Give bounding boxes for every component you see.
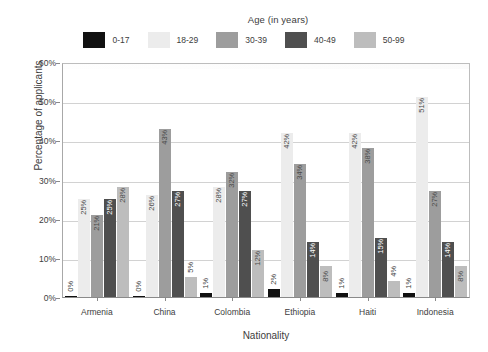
bar-haiti-18-29[interactable]: 42%	[349, 133, 361, 298]
bar-indonesia-40-49[interactable]: 14%	[442, 242, 454, 297]
bar-china-50-99[interactable]: 5%	[185, 277, 197, 297]
bar-group-china: 0%26%43%27%5%China	[131, 64, 199, 297]
x-tick-mark	[368, 297, 369, 301]
bar-value-label: 42%	[283, 130, 291, 148]
bar-value-label: 8%	[457, 263, 465, 281]
bar-china-40-49[interactable]: 27%	[172, 191, 184, 297]
y-tick-mark	[56, 298, 60, 299]
bar-ethiopia-40-49[interactable]: 14%	[307, 242, 319, 297]
bar-haiti-0-17[interactable]: 1%	[336, 293, 348, 297]
bar-haiti-50-99[interactable]: 4%	[388, 281, 400, 297]
x-tick-label-ethiopia: Ethiopia	[266, 307, 334, 317]
bar-armenia-0-17[interactable]: 0%	[65, 296, 77, 298]
bar-value-label: 38%	[364, 146, 372, 164]
bar-group-armenia: 0%25%21%25%28%Armenia	[63, 64, 131, 297]
bar-value-label: 28%	[119, 185, 127, 203]
bar-value-label: 21%	[93, 213, 101, 231]
bar-colombia-50-99[interactable]: 12%	[252, 250, 264, 297]
bar-group-indonesia: 1%51%27%14%8%Indonesia	[401, 64, 469, 297]
bar-indonesia-0-17[interactable]: 1%	[403, 293, 415, 297]
x-tick-label-indonesia: Indonesia	[401, 307, 469, 317]
legend-item-0-17: 0-17	[83, 32, 129, 48]
y-tick-mark	[56, 259, 60, 260]
legend-label: 18-29	[177, 35, 199, 45]
bar-group-ethiopia: 2%42%34%14%8%Ethiopia	[266, 64, 334, 297]
bar-china-0-17[interactable]: 0%	[133, 296, 145, 298]
legend-item-30-39: 30-39	[216, 32, 267, 48]
bar-indonesia-50-99[interactable]: 8%	[455, 266, 467, 297]
y-tick-label: 20%	[22, 215, 56, 225]
bar-value-label: 27%	[174, 189, 182, 207]
legend-label: 50-99	[383, 35, 405, 45]
y-tick-label: 10%	[22, 254, 56, 264]
legend-label: 30-39	[245, 35, 267, 45]
bar-value-label: 28%	[215, 185, 223, 203]
x-tick-label-haiti: Haiti	[334, 307, 402, 317]
chart-legend: 0-1718-2930-3940-4950-99	[0, 32, 488, 48]
bar-indonesia-18-29[interactable]: 51%	[416, 97, 428, 297]
bar-ethiopia-50-99[interactable]: 8%	[320, 266, 332, 297]
bar-value-label: 34%	[296, 162, 304, 180]
bar-value-label: 5%	[187, 255, 195, 273]
bar-value-label: 25%	[80, 197, 88, 215]
bar-china-18-29[interactable]: 26%	[146, 195, 158, 297]
bar-value-label: 32%	[228, 169, 236, 187]
legend-item-18-29: 18-29	[148, 32, 199, 48]
y-tick-mark	[56, 102, 60, 103]
bar-value-label: 1%	[202, 271, 210, 289]
y-tick-label: 0%	[22, 293, 56, 303]
y-tick-mark	[56, 63, 60, 64]
bar-value-label: 2%	[270, 267, 278, 285]
bar-haiti-30-39[interactable]: 38%	[362, 148, 374, 297]
legend-swatch-30-39	[216, 32, 238, 48]
x-tick-mark	[435, 297, 436, 301]
bar-value-label: 14%	[309, 240, 317, 258]
bar-colombia-18-29[interactable]: 28%	[213, 187, 225, 297]
y-axis-title: Percentage of applicants	[33, 26, 44, 206]
bar-groups: 0%25%21%25%28%Armenia0%26%43%27%5%China1…	[63, 64, 469, 297]
bar-value-label: 4%	[390, 259, 398, 277]
bar-indonesia-30-39[interactable]: 27%	[429, 191, 441, 297]
bar-value-label: 27%	[241, 189, 249, 207]
bar-value-label: 14%	[444, 240, 452, 258]
bar-value-label: 8%	[322, 263, 330, 281]
legend-swatch-0-17	[83, 32, 105, 48]
bar-ethiopia-18-29[interactable]: 42%	[281, 133, 293, 298]
y-tick-mark	[56, 141, 60, 142]
legend-item-40-49: 40-49	[285, 32, 336, 48]
bar-ethiopia-0-17[interactable]: 2%	[268, 289, 280, 297]
bar-armenia-40-49[interactable]: 25%	[104, 199, 116, 297]
bar-group-haiti: 1%42%38%15%4%Haiti	[334, 64, 402, 297]
bar-value-label: 15%	[377, 236, 385, 254]
x-tick-mark	[165, 297, 166, 301]
bar-value-label: 43%	[161, 126, 169, 144]
y-tick-mark	[56, 181, 60, 182]
x-tick-mark	[300, 297, 301, 301]
bar-haiti-40-49[interactable]: 15%	[375, 238, 387, 297]
legend-item-50-99: 50-99	[354, 32, 405, 48]
bar-colombia-30-39[interactable]: 32%	[226, 172, 238, 297]
x-tick-label-armenia: Armenia	[63, 307, 131, 317]
bar-value-label: 26%	[148, 193, 156, 211]
bar-value-label: 1%	[405, 271, 413, 289]
x-tick-mark	[232, 297, 233, 301]
legend-title: Age (in years)	[0, 14, 488, 25]
legend-swatch-50-99	[354, 32, 376, 48]
bar-ethiopia-30-39[interactable]: 34%	[294, 164, 306, 297]
y-tick-mark	[56, 220, 60, 221]
bar-armenia-30-39[interactable]: 21%	[91, 215, 103, 297]
x-tick-label-colombia: Colombia	[198, 307, 266, 317]
bar-colombia-0-17[interactable]: 1%	[200, 293, 212, 297]
legend-title-text: Age (in years)	[248, 14, 309, 25]
x-tick-label-china: China	[131, 307, 199, 317]
bar-colombia-40-49[interactable]: 27%	[239, 191, 251, 297]
bar-armenia-18-29[interactable]: 25%	[78, 199, 90, 297]
bar-value-label: 51%	[418, 95, 426, 113]
bar-armenia-50-99[interactable]: 28%	[117, 187, 129, 297]
bar-value-label: 1%	[338, 271, 346, 289]
legend-label: 40-49	[314, 35, 336, 45]
legend-swatch-18-29	[148, 32, 170, 48]
bar-value-label: 27%	[431, 189, 439, 207]
bar-china-30-39[interactable]: 43%	[159, 129, 171, 297]
bar-value-label: 0%	[67, 273, 75, 291]
